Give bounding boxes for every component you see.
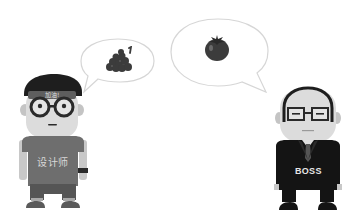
boss-speech-bubble (168, 16, 272, 94)
suit-text: BOSS (295, 166, 322, 176)
designer-speech-bubble (78, 36, 158, 94)
designer-character: 加油! 设计师 (18, 74, 88, 208)
boss-character: BOSS (274, 86, 342, 210)
grapes-icon (105, 46, 135, 74)
illustration-scene: 加油! 设计师 (0, 0, 358, 224)
headband-text: 加油! (45, 90, 59, 99)
tomato-icon (202, 32, 232, 62)
shirt-text: 设计师 (37, 154, 69, 169)
